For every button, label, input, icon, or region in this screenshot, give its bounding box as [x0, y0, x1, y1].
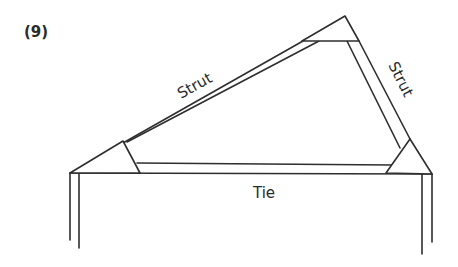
right-gusset-plate — [386, 139, 432, 174]
left-wall — [70, 173, 79, 248]
left-gusset-plate — [70, 141, 140, 173]
figure-number: (9) — [24, 23, 48, 41]
truss-drawing: (9) Strut Strut — [0, 0, 458, 267]
right-strut-label: Strut — [384, 59, 417, 100]
truss-diagram: (9) Strut Strut — [0, 0, 458, 267]
left-strut-label: Strut — [174, 69, 215, 103]
left-strut-member — [100, 41, 319, 156]
tie-label: Tie — [252, 184, 275, 202]
right-wall — [422, 174, 432, 254]
top-gusset-plate — [302, 16, 359, 41]
